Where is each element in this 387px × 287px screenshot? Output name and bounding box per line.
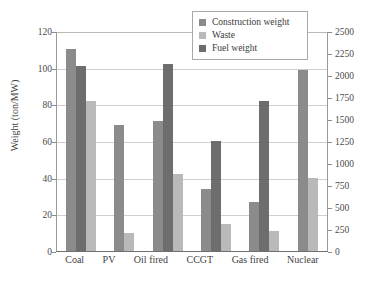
bar-construction-weight (66, 49, 76, 251)
tick-mark (328, 142, 332, 143)
tick-mark (328, 120, 332, 121)
bar-construction-weight (153, 121, 163, 251)
tick-mark (328, 76, 332, 77)
tick-mark (328, 230, 332, 231)
bar-groups (57, 32, 327, 251)
legend-label: Construction weight (212, 17, 289, 28)
bar-waste (221, 224, 231, 252)
bar-fuel-weight (163, 64, 173, 251)
tick-mark (328, 32, 332, 33)
bar-waste (124, 233, 134, 251)
tick-label: 100 (38, 64, 52, 74)
category-label: PV (103, 254, 116, 266)
tick-label: 60 (43, 137, 53, 147)
bar-waste (269, 231, 279, 251)
bar-fuel-weight (76, 66, 86, 251)
tick-label: 1250 (335, 137, 354, 147)
bar-group (249, 32, 279, 251)
tick-mark (328, 186, 332, 187)
category-label: Nuclear (287, 254, 319, 266)
tick-label: 2000 (335, 71, 354, 81)
bar-waste (308, 178, 318, 251)
category-label: Oil fired (134, 254, 168, 266)
tick-mark (328, 208, 332, 209)
bar-group (201, 32, 231, 251)
bar-chart: 020406080100120 025050075010001250150017… (0, 0, 387, 287)
tick-label: 120 (38, 27, 52, 37)
tick-label: 0 (335, 247, 340, 257)
legend-item: Fuel weight (199, 42, 302, 55)
legend-item: Construction weight (199, 16, 302, 29)
tick-label: 0 (47, 247, 52, 257)
bar-construction-weight (201, 189, 211, 251)
tick-label: 750 (335, 181, 349, 191)
tick-mark (328, 164, 332, 165)
legend-label: Waste (212, 30, 235, 41)
tick-mark (328, 98, 332, 99)
bar-construction-weight (249, 202, 259, 252)
category-label: CCGT (186, 254, 213, 266)
tick-label: 2500 (335, 27, 354, 37)
legend-label: Fuel weight (212, 43, 257, 54)
bar-construction-weight (298, 70, 308, 252)
bar-group (114, 32, 134, 251)
legend-swatch-waste (199, 32, 206, 39)
legend-swatch-construction-weight (199, 19, 206, 26)
tick-mark (52, 252, 56, 253)
tick-label: 1500 (335, 115, 354, 125)
legend-item: Waste (199, 29, 302, 42)
tick-label: 40 (43, 174, 53, 184)
category-label: Gas fired (232, 254, 269, 266)
tick-label: 80 (43, 100, 53, 110)
tick-label: 20 (43, 210, 53, 220)
bar-fuel-weight (211, 141, 221, 251)
bar-fuel-weight (259, 101, 269, 251)
category-label: Coal (65, 254, 84, 266)
tick-label: 2250 (335, 49, 354, 59)
bar-waste (173, 174, 183, 251)
bar-waste (86, 101, 96, 251)
legend-swatch-fuel-weight (199, 45, 206, 52)
tick-mark (328, 252, 332, 253)
tick-label: 250 (335, 225, 349, 235)
bar-group (298, 32, 318, 251)
plot-area (56, 32, 328, 252)
tick-label: 500 (335, 203, 349, 213)
bar-group (66, 32, 96, 251)
legend: Construction weight Waste Fuel weight (192, 11, 308, 60)
x-axis-category-labels: CoalPVOil firedCCGTGas firedNuclear (56, 254, 328, 274)
y-axis-left-title: Weight (ton/MW) (9, 56, 20, 176)
tick-label: 1000 (335, 159, 354, 169)
bar-group (153, 32, 183, 251)
tick-label: 1750 (335, 93, 354, 103)
bar-construction-weight (114, 125, 124, 252)
tick-mark (328, 54, 332, 55)
